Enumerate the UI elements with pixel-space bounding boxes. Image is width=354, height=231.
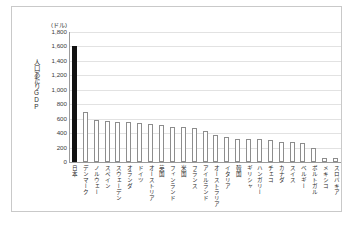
y-tick-label: 600 [17, 116, 67, 122]
gridline [69, 90, 341, 91]
y-axis-tick-labels: 1,8001,6001,4001,2001,0008006004002000 [12, 7, 67, 231]
bar[interactable] [72, 46, 77, 162]
x-tick-label: メキシコ [321, 165, 329, 189]
bar[interactable] [105, 121, 110, 162]
x-tick-label: フランス [190, 165, 198, 189]
x-tick-label: 米国 [179, 165, 187, 177]
x-tick-label: フィンランド [168, 165, 176, 201]
x-tick-label: ノルウェー [92, 165, 100, 195]
bar[interactable] [213, 135, 218, 162]
x-tick-label: スウェーデン [114, 165, 122, 201]
x-tick-label: イタリア [223, 165, 231, 189]
y-tick-label: 1,200 [17, 72, 67, 78]
bar[interactable] [126, 122, 131, 162]
x-tick-label: ポルトガル [310, 165, 318, 195]
x-tick-label: スペイン [103, 165, 111, 189]
gridline [69, 46, 341, 47]
bar[interactable] [192, 128, 197, 162]
y-tick-label: 1,000 [17, 87, 67, 93]
bar[interactable] [257, 139, 262, 162]
x-tick-label: 韓国 [234, 165, 242, 177]
x-axis-tick-labels: 日本デンマークノルウェースペインスウェーデンオランダドイツオーストリア英国フィン… [69, 165, 341, 227]
y-tick-label: 1,800 [17, 29, 67, 35]
bar[interactable] [246, 139, 251, 162]
gridline [69, 104, 341, 105]
bar[interactable] [94, 120, 99, 162]
x-tick-label: カナダ [277, 165, 285, 183]
plot-area [69, 32, 341, 162]
bar[interactable] [137, 123, 142, 162]
x-tick-label: ハンガリー [255, 165, 263, 195]
y-tick-label: 1,600 [17, 43, 67, 49]
bar[interactable] [224, 137, 229, 162]
x-axis-line [69, 162, 341, 163]
x-tick-label: 日本 [70, 165, 78, 177]
bar[interactable] [290, 142, 295, 162]
x-tick-label: 英国 [157, 165, 165, 177]
gridline [69, 119, 341, 120]
x-tick-label: ドイツ [136, 165, 144, 183]
x-tick-label: オーストラリア [212, 165, 220, 207]
bar[interactable] [181, 127, 186, 162]
gridline [69, 32, 341, 33]
gridline [69, 61, 341, 62]
bar[interactable] [159, 125, 164, 162]
bar[interactable] [235, 139, 240, 162]
x-tick-label: チェコ [266, 165, 274, 183]
bar[interactable] [203, 131, 208, 162]
x-tick-label: スイス [288, 165, 296, 183]
y-tick-label: 200 [17, 145, 67, 151]
gridline [69, 75, 341, 76]
chart-frame: (ドル) 人口あたりGDP 1,8001,6001,4001,2001,0008… [11, 6, 342, 212]
bar[interactable] [170, 127, 175, 162]
bar[interactable] [300, 143, 305, 162]
bar[interactable] [268, 140, 273, 162]
x-tick-label: ベルギー [299, 165, 307, 189]
bar[interactable] [148, 124, 153, 162]
y-tick-label: 1,400 [17, 58, 67, 64]
x-tick-label: ギリシャ [245, 165, 253, 189]
y-tick-label: 800 [17, 101, 67, 107]
bar[interactable] [279, 142, 284, 162]
y-tick-label: 400 [17, 130, 67, 136]
bar[interactable] [83, 112, 88, 162]
x-tick-label: オランダ [125, 165, 133, 189]
x-tick-label: スロバキア [332, 165, 340, 195]
x-tick-label: デンマーク [81, 165, 89, 195]
bar[interactable] [115, 122, 120, 162]
y-tick-label: 0 [17, 159, 67, 165]
bar[interactable] [311, 148, 316, 162]
y-axis-line [69, 32, 70, 163]
x-tick-label: オーストリア [147, 165, 155, 201]
x-tick-label: アイルランド [201, 165, 209, 201]
